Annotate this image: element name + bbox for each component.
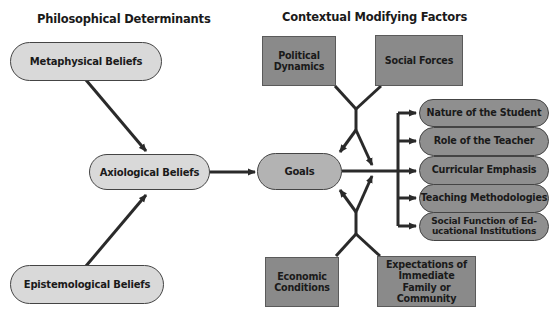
outcome-role-of-teacher: Role of the Teacher <box>419 127 549 156</box>
metaphysical-beliefs-node: Metaphysical Beliefs <box>10 42 162 81</box>
heading-philosophical-determinants: Philosophical Determinants <box>37 12 211 26</box>
goals-node: Goals <box>257 153 342 190</box>
axiological-beliefs-node: Axiological Beliefs <box>89 154 210 190</box>
epistemological-beliefs-node: Epistemological Beliefs <box>10 265 164 304</box>
outcome-curricular-emphasis: Curricular Emphasis <box>419 156 549 185</box>
outcome-nature-of-student: Nature of the Student <box>419 99 549 127</box>
heading-contextual-modifying-factors: Contextual Modifying Factors <box>282 10 467 24</box>
social-forces-box: Social Forces <box>375 35 463 86</box>
outcome-teaching-methodologies: Teaching Methodologies <box>419 184 549 213</box>
outcome-social-function-institutions: Social Function of Ed-ucational Institut… <box>419 212 549 241</box>
economic-conditions-box: Economic Conditions <box>265 257 339 307</box>
expectations-family-community-box: Expectations of Immediate Family or Comm… <box>377 256 476 307</box>
political-dynamics-box: Political Dynamics <box>262 36 336 86</box>
